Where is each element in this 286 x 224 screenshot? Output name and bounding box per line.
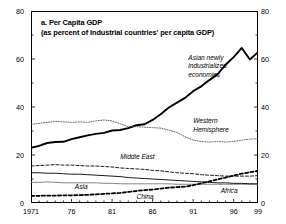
y-tick-label-right: 20 — [261, 151, 279, 160]
x-tick-label: 1971 — [18, 207, 44, 216]
series-label-asian-nie: Asian newlyindustrializedeconomies — [188, 54, 226, 80]
series-label-asia: Asia — [75, 183, 88, 192]
x-tick-label: 99 — [245, 207, 271, 216]
x-tick-label: 81 — [99, 207, 125, 216]
series-label-china: China — [136, 193, 153, 202]
y-tick-label-right: 80 — [261, 7, 279, 16]
chart-figure: a. Per Capita GDP (as percent of Industr… — [0, 0, 286, 224]
y-tick-label-left: 40 — [6, 103, 24, 112]
y-tick-label-left: 60 — [6, 55, 24, 64]
x-tick-label: 86 — [140, 207, 166, 216]
series-label-africa: Africa — [221, 187, 238, 196]
plot-svg — [31, 11, 258, 203]
plot-area — [31, 11, 258, 203]
y-tick-label-right: 60 — [261, 55, 279, 64]
x-tick-label: 76 — [59, 207, 85, 216]
y-tick-label-left: 80 — [6, 7, 24, 16]
y-tick-label-left: 20 — [6, 151, 24, 160]
series-label-middle-east: Middle East — [120, 153, 154, 162]
x-tick-label: 91 — [180, 207, 206, 216]
series-line-middle-east — [31, 165, 258, 177]
series-label-western-hemisphere: WesternHemisphere — [193, 117, 229, 134]
x-tick-label: 96 — [221, 207, 247, 216]
y-tick-label-right: 40 — [261, 103, 279, 112]
